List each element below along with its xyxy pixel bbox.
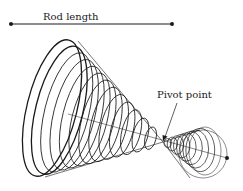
rod-length-label: Rod length xyxy=(43,11,99,22)
upper-cone-envelope xyxy=(78,41,163,142)
rod-length-end-dot xyxy=(170,22,174,26)
rod-length-start-dot xyxy=(9,22,13,26)
pivot-arrow-shaft xyxy=(165,103,177,137)
upper-cone-envelope xyxy=(45,142,163,177)
lower-cone-envelope xyxy=(163,130,200,142)
rod-length-scale: Rod length xyxy=(9,11,174,26)
pivot-point-label: Pivot point xyxy=(157,89,212,100)
upper-loop xyxy=(61,69,118,170)
lower-cone-trajectory xyxy=(163,127,227,178)
lower-loop xyxy=(186,128,215,171)
upper-cone-trajectory xyxy=(11,34,163,182)
upper-loop xyxy=(21,41,99,180)
pendulum-diagram: Rod length Pivot point xyxy=(0,0,243,191)
pendulum-bob-dot xyxy=(225,156,229,160)
